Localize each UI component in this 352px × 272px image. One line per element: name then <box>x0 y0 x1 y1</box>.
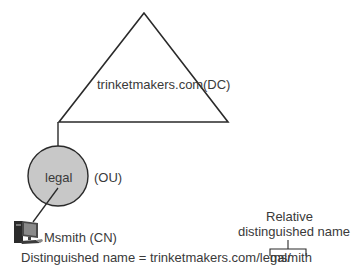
rdn-annotation-line1: Relative <box>266 209 313 224</box>
ou-type-label: (OU) <box>94 170 122 185</box>
domain-triangle <box>59 13 228 122</box>
cn-label: Msmith (CN) <box>44 230 117 245</box>
distinguished-name-prefix: Distinguished name = trinketmakers.com/l… <box>21 250 291 265</box>
ou-name-label: legal <box>45 170 72 185</box>
distinguished-name-rdn: msmith <box>270 250 312 265</box>
rdn-annotation-line2: distinguished name <box>238 224 350 239</box>
domain-name-label: trinketmakers.com <box>97 77 203 92</box>
computer-icon <box>14 221 43 244</box>
domain-type-label: (DC) <box>203 77 230 92</box>
